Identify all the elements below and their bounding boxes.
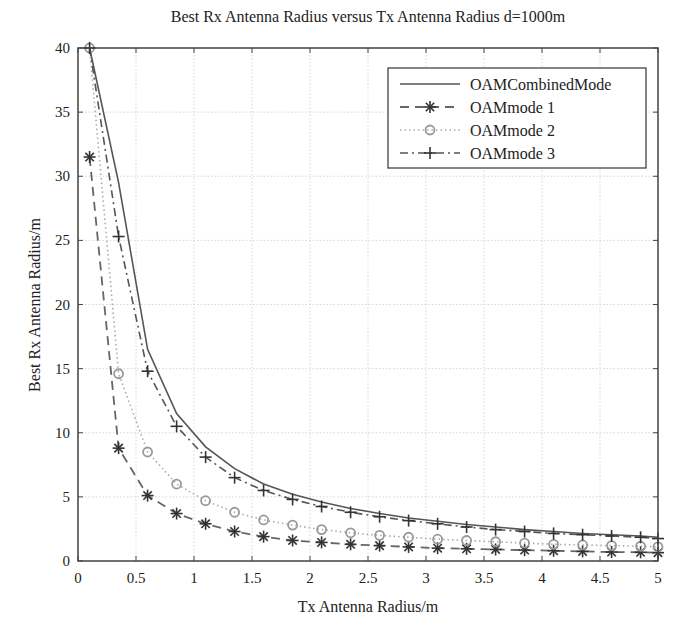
x-tick-label: 3.5 [475, 570, 494, 586]
data-point-asterisk [84, 151, 96, 163]
data-point-asterisk [403, 541, 415, 553]
x-tick-label: 1.5 [243, 570, 262, 586]
data-point-asterisk [171, 508, 183, 520]
x-tick-label: 5 [654, 570, 662, 586]
data-point-plus [490, 524, 502, 536]
data-point-plus [519, 526, 531, 538]
data-point-circle [114, 369, 123, 378]
y-tick-label: 15 [55, 361, 70, 377]
x-tick-label: 1 [190, 570, 198, 586]
data-point-asterisk [374, 540, 386, 552]
data-point-plus [548, 527, 560, 539]
x-tick-label: 0 [74, 570, 82, 586]
data-point-plus [461, 521, 473, 533]
y-tick-label: 35 [55, 104, 70, 120]
data-point-circle [259, 515, 268, 524]
x-tick-label: 3 [422, 570, 430, 586]
data-point-asterisk [200, 518, 212, 530]
legend: OAMCombinedModeOAMmode 1OAMmode 2OAMmode… [388, 68, 646, 168]
data-point-asterisk [258, 531, 270, 543]
legend-label: OAMmode 2 [470, 122, 555, 139]
data-point-asterisk [316, 536, 328, 548]
y-tick-label: 40 [55, 40, 70, 56]
data-point-asterisk [229, 526, 241, 538]
x-tick-label: 4.5 [591, 570, 610, 586]
legend-label: OAMmode 3 [470, 145, 555, 162]
data-point-plus [635, 531, 647, 543]
data-point-asterisk [490, 543, 502, 555]
x-tick-label: 2.5 [359, 570, 378, 586]
x-tick-label: 4 [538, 570, 546, 586]
data-point-plus [403, 515, 415, 527]
data-point-asterisk [142, 490, 154, 502]
data-point-plus [229, 472, 241, 484]
y-tick-label: 5 [63, 489, 71, 505]
data-point-plus [577, 529, 589, 541]
x-tick-label: 2 [306, 570, 314, 586]
data-point-asterisk [287, 534, 299, 546]
data-point-plus [142, 365, 154, 377]
data-point-plus [432, 518, 444, 530]
data-point-plus [606, 530, 618, 542]
y-tick-label: 0 [63, 553, 71, 569]
legend-label: OAMmode 1 [470, 99, 555, 116]
x-tick-label: 0.5 [127, 570, 146, 586]
x-axis-label: Tx Antenna Radius/m [298, 598, 439, 615]
legend-label: OAMCombinedMode [470, 76, 611, 93]
data-point-asterisk [345, 538, 357, 550]
y-axis-label: Best Rx Antenna Radius/m [26, 218, 43, 392]
data-point-circle [172, 480, 181, 489]
series-oammode-1 [84, 151, 664, 559]
chart-figure: Best Rx Antenna Radius versus Tx Antenna… [0, 0, 684, 644]
y-tick-label: 10 [55, 425, 70, 441]
y-tick-label: 25 [55, 232, 70, 248]
y-tick-label: 20 [55, 297, 70, 313]
series-line [90, 157, 658, 553]
data-point-asterisk [424, 101, 436, 113]
data-point-asterisk [113, 442, 125, 454]
chart-title: Best Rx Antenna Radius versus Tx Antenna… [171, 8, 566, 25]
y-tick-label: 30 [55, 168, 70, 184]
